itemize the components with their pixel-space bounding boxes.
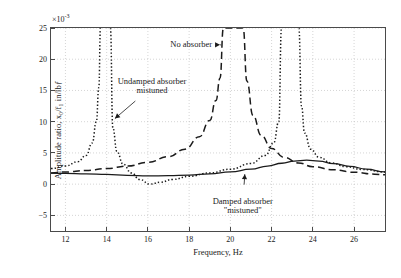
annotation-line: "mistuned" — [213, 207, 273, 217]
y-tick-mark — [51, 152, 55, 153]
figure-container: ×10-3 Amplitude ratio, x₀/f₁ in/lbƒ Freq… — [0, 0, 401, 278]
annotation-no-absorber: No absorber — [170, 40, 212, 50]
x-tick-mark — [354, 227, 355, 231]
y-tick-mark — [51, 59, 55, 60]
y-tick-mark — [51, 28, 55, 29]
x-tick-label: 26 — [350, 235, 358, 244]
y-tick-label: 25 — [39, 24, 47, 33]
plot-area: Amplitude ratio, x₀/f₁ in/lbƒ Frequency,… — [50, 27, 386, 232]
x-tick-label: 20 — [226, 235, 234, 244]
y-tick-label: 15 — [39, 86, 47, 95]
x-tick-mark — [65, 227, 66, 231]
x-tick-mark — [312, 227, 313, 231]
y-axis-multiplier-exponent: -3 — [65, 13, 70, 19]
x-tick-label: 18 — [185, 235, 193, 244]
x-tick-label: 12 — [61, 235, 69, 244]
x-tick-mark — [106, 227, 107, 231]
y-tick-label: 20 — [39, 55, 47, 64]
annotation-undamped-absorber-mistuned: Undamped absorbermistuned — [118, 77, 187, 97]
annotation-line: mistuned — [118, 87, 187, 97]
annotation-arrowhead — [242, 174, 247, 179]
y-tick-label: −5 — [38, 211, 47, 220]
x-tick-mark — [147, 227, 148, 231]
x-tick-label: 14 — [103, 235, 111, 244]
x-tick-label: 22 — [268, 235, 276, 244]
y-tick-label: 10 — [39, 117, 47, 126]
x-tick-mark — [230, 227, 231, 231]
y-tick-mark — [51, 184, 55, 185]
y-tick-mark — [51, 121, 55, 122]
annotation-line: No absorber — [170, 40, 212, 50]
y-axis-multiplier: ×10-3 — [52, 13, 70, 24]
annotation-arrowhead — [215, 42, 220, 47]
x-tick-label: 24 — [309, 235, 317, 244]
x-tick-mark — [271, 227, 272, 231]
y-tick-label: 5 — [43, 148, 47, 157]
x-axis-label: Frequency, Hz — [51, 247, 385, 257]
x-tick-label: 16 — [144, 235, 152, 244]
y-axis-multiplier-base: ×10 — [52, 15, 65, 24]
y-tick-mark — [51, 90, 55, 91]
y-tick-mark — [51, 215, 55, 216]
x-tick-mark — [189, 227, 190, 231]
y-tick-label: 0 — [43, 180, 47, 189]
annotation-damped-absorber-mistuned: Damped absorber"mistuned" — [213, 197, 273, 217]
